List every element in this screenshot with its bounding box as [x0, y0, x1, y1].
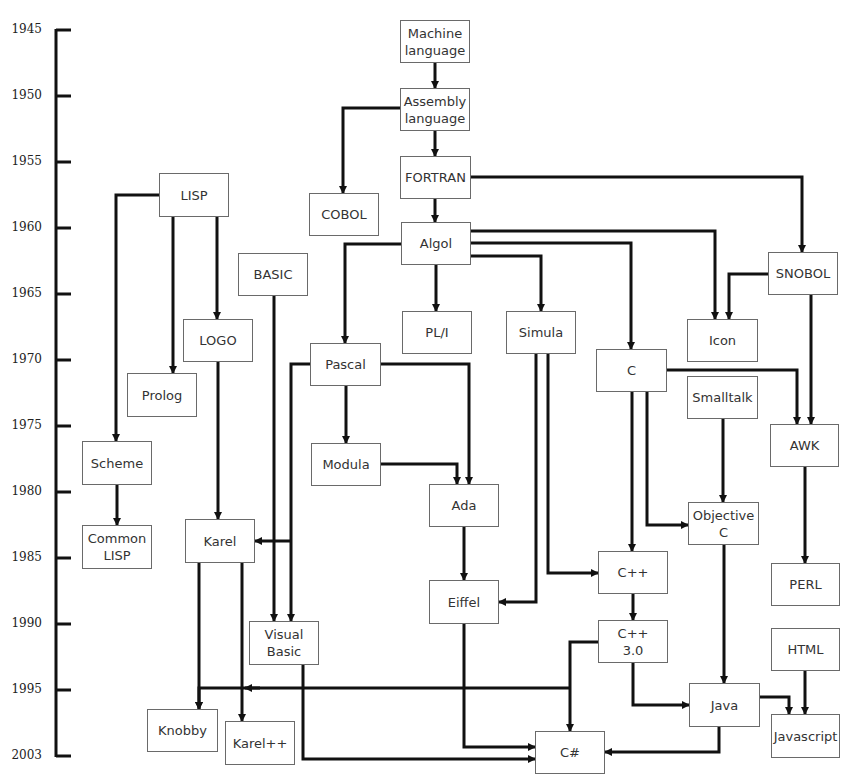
node-commonlisp: Common LISP — [82, 525, 152, 569]
year-label: 1970 — [0, 352, 42, 366]
node-modula: Modula — [311, 443, 381, 486]
edge-modula-to-ada — [381, 464, 457, 484]
node-cpp: C++ — [598, 551, 668, 594]
node-algol: Algol — [401, 222, 471, 265]
node-scheme: Scheme — [82, 441, 152, 485]
edge-fortran-to-snobol — [471, 177, 802, 252]
node-assembly: Assembly language — [400, 88, 470, 131]
node-html: HTML — [771, 628, 840, 671]
year-label: 1985 — [0, 550, 42, 564]
edge-java-to-csharp — [605, 727, 719, 752]
node-objc: Objective C — [688, 502, 759, 545]
year-label: 1950 — [0, 88, 42, 102]
node-simula: Simula — [506, 311, 576, 354]
node-cobol: COBOL — [309, 193, 379, 236]
edge-pascal-to-vb — [291, 364, 310, 621]
node-karelpp: Karel++ — [225, 721, 295, 765]
edge-algol-to-pascal — [345, 244, 401, 343]
node-basic: BASIC — [238, 253, 308, 296]
node-knobby: Knobby — [147, 709, 218, 752]
node-vb: Visual Basic — [249, 621, 319, 665]
node-eiffel: Eiffel — [429, 580, 499, 624]
year-label: 1995 — [0, 682, 42, 696]
edge-algol-to-simula — [471, 256, 541, 311]
node-ada: Ada — [429, 484, 499, 527]
node-machine: Machine language — [400, 20, 470, 63]
node-javascript: Javascript — [771, 714, 840, 758]
edge-assembly-to-cobol — [343, 108, 400, 193]
edge-vb-to-csharp — [303, 665, 535, 759]
node-smalltalk: Smalltalk — [687, 376, 758, 419]
node-java: Java — [689, 683, 760, 727]
year-label: 1960 — [0, 220, 42, 234]
node-cpp30: C++ 3.0 — [598, 620, 668, 663]
edge-c-to-objc — [647, 392, 688, 525]
year-label: 1990 — [0, 616, 42, 630]
node-prolog: Prolog — [127, 373, 197, 417]
node-icon: Icon — [687, 319, 758, 362]
edge-cpp30-to-csharp — [570, 642, 598, 731]
edge-eiffel-to-csharp — [464, 624, 535, 747]
year-label: 1965 — [0, 286, 42, 300]
node-c: C — [596, 349, 667, 392]
node-pascal: Pascal — [310, 343, 381, 386]
edge-simula-to-eiffel — [499, 354, 536, 602]
node-fortran: FORTRAN — [400, 156, 471, 199]
year-label: 1945 — [0, 22, 42, 36]
node-logo: LOGO — [183, 319, 253, 362]
timeline-ticks — [56, 30, 71, 756]
edge-java-to-javascript — [760, 697, 789, 714]
year-label: 2003 — [0, 748, 42, 762]
edge-cpp30-to-java — [633, 663, 689, 705]
year-label: 1980 — [0, 484, 42, 498]
year-label: 1975 — [0, 418, 42, 432]
edge-snobol-to-icon — [729, 274, 768, 319]
node-snobol: SNOBOL — [768, 252, 838, 295]
node-karel: Karel — [185, 519, 255, 563]
edge-simula-to-cpp — [548, 354, 598, 573]
node-awk: AWK — [770, 424, 839, 467]
edge-cpp30-to-knobby — [199, 688, 570, 709]
node-lisp: LISP — [159, 173, 229, 217]
node-perl: PERL — [771, 563, 840, 606]
node-pli: PL/I — [402, 311, 472, 354]
node-csharp: C# — [535, 731, 605, 774]
year-label: 1955 — [0, 154, 42, 168]
